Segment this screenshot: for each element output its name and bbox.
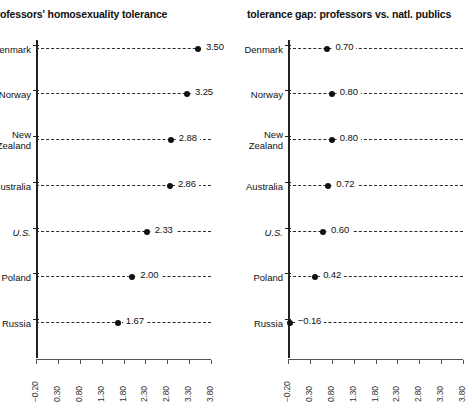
row-axis-tick [33, 273, 39, 274]
data-point-dot [312, 274, 318, 280]
row-category-label-left: Norway [0, 89, 31, 100]
data-point-value-label: 0.80 [337, 132, 361, 143]
data-point-value-label: 3.50 [203, 41, 227, 52]
data-point-value-label: 0.80 [337, 86, 361, 97]
x-axis-tick-label: −0.20 [30, 381, 40, 402]
x-axis-tick [310, 360, 311, 364]
row-axis-tick [33, 90, 39, 91]
row-axis-tick [285, 90, 291, 91]
data-point-dot [195, 46, 201, 52]
x-axis-tick-label: 1.80 [370, 386, 380, 402]
x-axis-tick [288, 360, 289, 364]
row-dashed-line [288, 93, 463, 94]
x-axis-tick-label: 1.30 [96, 386, 106, 402]
plot-area-right: −0.200.300.801.301.802.302.803.303.80Den… [288, 30, 463, 360]
row-dashed-line [288, 139, 463, 140]
x-axis-tick [332, 360, 333, 364]
x-axis-tick [211, 360, 212, 364]
data-point-dot [129, 274, 135, 280]
x-axis-tick-label: 0.80 [326, 386, 336, 402]
x-axis-tick-label: 2.80 [161, 386, 171, 402]
chart-panel-tolerance-gap: tolerance gap: professors vs. natl. publ… [236, 0, 472, 416]
row-category-label-right: Russia [254, 318, 283, 329]
x-axis-tick-label: 3.80 [205, 386, 215, 402]
x-axis-tick [124, 360, 125, 364]
x-axis-tick-label: 0.80 [74, 386, 84, 402]
row-dashed-line [36, 48, 211, 49]
data-point-value-label: −0.16 [295, 315, 325, 326]
row-category-label-left: Russia [2, 318, 31, 329]
x-axis-tick [58, 360, 59, 364]
x-axis-tick [441, 360, 442, 364]
data-point-dot [329, 137, 335, 143]
data-point-dot [144, 229, 150, 235]
row-category-label-left: New Zealand [0, 129, 31, 151]
x-axis-tick-label: 3.80 [457, 386, 467, 402]
data-point-value-label: 1.67 [123, 315, 147, 326]
data-point-dot [320, 229, 326, 235]
data-point-dot [325, 183, 331, 189]
data-point-value-label: 2.00 [137, 269, 161, 280]
x-axis-tick [397, 360, 398, 364]
row-dashed-line [288, 185, 463, 186]
x-axis-tick [463, 360, 464, 364]
row-axis-tick [33, 136, 39, 137]
row-axis-tick [33, 182, 39, 183]
x-axis-tick [419, 360, 420, 364]
x-axis-tick [80, 360, 81, 364]
x-axis-tick-label: 0.30 [304, 386, 314, 402]
row-category-label-right: Denmark [244, 44, 283, 55]
row-axis-tick [33, 319, 39, 320]
panel-title-right: tolerance gap: professors vs. natl. publ… [247, 8, 451, 20]
row-category-label-right: Australia [246, 181, 283, 192]
row-dashed-line [288, 48, 463, 49]
row-category-label-right: Poland [253, 272, 283, 283]
row-category-label-left: Poland [1, 272, 31, 283]
data-point-value-label: 0.72 [333, 178, 357, 189]
x-axis-tick-label: 3.30 [435, 386, 445, 402]
plot-area-left: −0.200.300.801.301.802.302.803.303.80enm… [36, 30, 211, 360]
x-axis-tick [36, 360, 37, 364]
x-axis-tick-label: 3.30 [183, 386, 193, 402]
x-axis-tick [354, 360, 355, 364]
data-point-value-label: 2.86 [175, 178, 199, 189]
x-axis-tick [102, 360, 103, 364]
x-axis-tick-label: 0.30 [52, 386, 62, 402]
data-point-value-label: 0.70 [332, 41, 356, 52]
data-point-dot [167, 183, 173, 189]
data-point-dot [168, 137, 174, 143]
x-axis-tick-label: 2.30 [139, 386, 149, 402]
data-point-value-label: 0.60 [328, 224, 352, 235]
data-point-value-label: 0.42 [320, 269, 344, 280]
x-axis-tick [376, 360, 377, 364]
x-axis-tick-label: 2.30 [391, 386, 401, 402]
row-axis-tick [285, 136, 291, 137]
data-point-value-label: 3.25 [192, 86, 216, 97]
x-axis-tick-label: −0.20 [282, 381, 292, 402]
row-axis-tick [285, 228, 291, 229]
row-category-label-left: ustralia [0, 181, 31, 192]
row-axis-tick [285, 273, 291, 274]
row-axis-tick [33, 228, 39, 229]
row-axis-tick [285, 182, 291, 183]
x-axis-tick-label: 1.30 [348, 386, 358, 402]
data-point-dot [329, 91, 335, 97]
data-point-dot [324, 46, 330, 52]
two-panel-dot-chart: rofessors' homosexuality tolerance −0.20… [0, 0, 472, 416]
x-axis-tick-label: 1.80 [118, 386, 128, 402]
x-axis-tick [189, 360, 190, 364]
panel-title-left: rofessors' homosexuality tolerance [0, 8, 167, 20]
row-category-label-right: Norway [251, 89, 283, 100]
row-category-label-right: New Zealand [249, 129, 283, 151]
row-axis-tick [285, 45, 291, 46]
data-point-dot [287, 320, 293, 326]
row-dashed-line [36, 276, 211, 277]
chart-panel-professor-tolerance: rofessors' homosexuality tolerance −0.20… [0, 0, 236, 416]
y-axis-line-left [36, 40, 38, 358]
x-axis-tick [145, 360, 146, 364]
row-category-label-left: enmark [0, 44, 31, 55]
data-point-dot [184, 91, 190, 97]
x-axis-tick [167, 360, 168, 364]
row-dashed-line [36, 231, 211, 232]
data-point-dot [115, 320, 121, 326]
